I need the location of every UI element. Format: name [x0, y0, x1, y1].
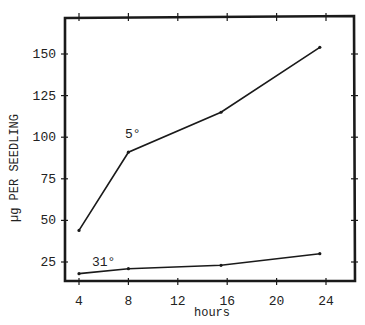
series-label-31deg: 31°: [92, 255, 115, 270]
data-point: [219, 264, 222, 267]
data-point: [77, 229, 80, 232]
series-label-5deg: 5°: [125, 127, 141, 142]
y-tick-label: 100: [33, 130, 56, 145]
series-lines: [77, 46, 321, 276]
data-point: [127, 267, 130, 270]
data-point: [77, 272, 80, 275]
y-tick-label: 50: [40, 213, 56, 228]
x-axis-label: hours: [194, 306, 230, 320]
plot-frame: [65, 16, 355, 281]
y-axis-ticks: 255075100125150: [33, 47, 358, 270]
y-tick-label: 75: [40, 172, 56, 187]
data-point: [219, 111, 222, 114]
frame-border: [65, 16, 355, 281]
data-point: [127, 151, 130, 154]
x-tick-label: 12: [170, 294, 186, 309]
series-line-0: [79, 47, 320, 230]
y-tick-label: 25: [40, 255, 56, 270]
x-tick-label: 24: [318, 294, 334, 309]
y-tick-label: 150: [33, 47, 56, 62]
y-axis-label: µg PER SEEDLING: [8, 114, 22, 222]
x-tick-label: 20: [269, 294, 285, 309]
data-point: [318, 46, 321, 49]
data-point: [318, 252, 321, 255]
y-tick-label: 125: [33, 89, 56, 104]
x-tick-label: 4: [75, 294, 83, 309]
line-chart: 255075100125150 4812162024 hours µg PER …: [0, 0, 365, 325]
x-tick-label: 8: [124, 294, 132, 309]
